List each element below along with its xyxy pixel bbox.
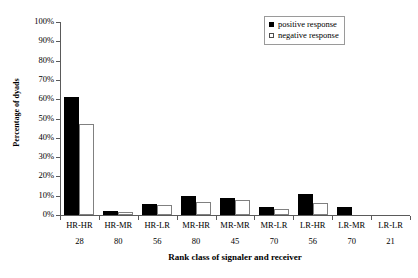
bar-negative-response (313, 203, 328, 215)
legend-label-positive: positive response (278, 19, 337, 30)
x-category-name: HR-HR (60, 220, 99, 231)
x-category-count: 21 (371, 236, 410, 247)
x-category-name: LR-LR (371, 220, 410, 231)
bar-group (216, 22, 255, 215)
bar-negative-response (235, 200, 250, 215)
bar-positive-response (142, 204, 157, 215)
x-category-label: MR-MR45 (216, 220, 255, 247)
legend-label-negative: negative response (278, 30, 339, 41)
x-category-label: LR-LR21 (371, 220, 410, 247)
x-category-name: LR-MR (332, 220, 371, 231)
y-tick-label: 50% (38, 113, 54, 123)
y-tick-label: 10% (38, 190, 54, 200)
y-tick-label: 70% (38, 74, 54, 84)
y-tick-label: 80% (38, 55, 54, 65)
bar-group (254, 22, 293, 215)
x-category-count: 56 (138, 236, 177, 247)
bar-positive-response (337, 207, 352, 215)
x-category-name: HR-MR (99, 220, 138, 231)
legend-swatch-negative-icon (269, 33, 274, 38)
bar-positive-response (220, 198, 235, 215)
bar-positive-response (259, 207, 274, 215)
x-category-count: 70 (254, 236, 293, 247)
bar-negative-response (79, 124, 94, 215)
y-tick-label: 30% (38, 151, 54, 161)
x-category-count: 45 (216, 236, 255, 247)
x-category-name: MR-LR (254, 220, 293, 231)
chart-legend: positive response negative response (264, 16, 345, 45)
x-category-count: 28 (60, 236, 99, 247)
x-category-label: LR-HR56 (293, 220, 332, 247)
legend-item-positive-response: positive response (269, 19, 339, 30)
x-category-count: 70 (332, 236, 371, 247)
bar-positive-response (298, 194, 313, 215)
bar-negative-response (274, 209, 289, 215)
bar-group (293, 22, 332, 215)
y-tick-label: 20% (38, 170, 54, 180)
bar-group (332, 22, 371, 215)
x-axis-title: Rank class of signaler and receiver (60, 252, 410, 262)
bar-negative-response (157, 205, 172, 215)
x-category-count: 80 (177, 236, 216, 247)
x-category-count: 56 (293, 236, 332, 247)
x-category-name: MR-HR (177, 220, 216, 231)
x-tick-mark (410, 216, 411, 220)
y-tick-label: 0% (43, 209, 54, 219)
x-category-label: HR-HR28 (60, 220, 99, 247)
y-axis-title: Percentage of dyads (12, 53, 21, 173)
bar-positive-response (103, 211, 118, 215)
bar-group (60, 22, 99, 215)
bar-negative-response (118, 212, 133, 215)
bar-group (177, 22, 216, 215)
legend-swatch-positive-icon (269, 22, 274, 27)
bar-group (138, 22, 177, 215)
bar-group (371, 22, 410, 215)
legend-item-negative-response: negative response (269, 30, 339, 41)
y-tick-label: 40% (38, 132, 54, 142)
y-tick-label: 90% (38, 35, 54, 45)
x-category-label: MR-LR70 (254, 220, 293, 247)
x-category-name: MR-MR (216, 220, 255, 231)
bar-chart: Percentage of dyads 0%10%20%30%40%50%60%… (0, 0, 418, 278)
bar-negative-response (196, 202, 211, 216)
x-category-name: HR-LR (138, 220, 177, 231)
y-tick-label: 100% (34, 16, 54, 26)
x-category-label: HR-LR56 (138, 220, 177, 247)
y-tick-label: 60% (38, 93, 54, 103)
x-category-name: LR-HR (293, 220, 332, 231)
bar-positive-response (181, 196, 196, 215)
x-category-label: HR-MR80 (99, 220, 138, 247)
x-category-label: MR-HR80 (177, 220, 216, 247)
plot-area: 0%10%20%30%40%50%60%70%80%90%100% (60, 22, 410, 216)
x-category-label: LR-MR70 (332, 220, 371, 247)
bar-group (99, 22, 138, 215)
x-category-count: 80 (99, 236, 138, 247)
bar-positive-response (64, 97, 79, 215)
x-axis-line (60, 215, 410, 216)
